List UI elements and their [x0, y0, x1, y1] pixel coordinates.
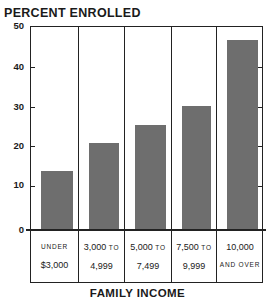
y-tick-label-50: 50 — [2, 20, 24, 31]
y-tick-label-20: 20 — [2, 140, 24, 151]
category-label-4: 7,500 TO 9,999 — [172, 238, 216, 275]
category-label-2: 3,000 TO 4,999 — [79, 238, 124, 275]
category-line-2: 9,999 — [172, 257, 216, 275]
y-tick — [30, 186, 35, 187]
category-label-3: 5,000 TO 7,499 — [125, 238, 171, 275]
category-line-1: UNDER — [31, 238, 78, 256]
category-line-1: 7,500 TO — [172, 238, 216, 257]
range-to: TO — [155, 244, 166, 251]
category-label-1: UNDER $3,000 — [31, 238, 78, 274]
category-label-5: 10,000 AND OVER — [217, 238, 263, 274]
y-tick — [258, 186, 263, 187]
range-to: TO — [201, 244, 212, 251]
bar-1 — [41, 171, 73, 230]
bar-5 — [227, 40, 258, 230]
range-start: 7,500 — [176, 242, 199, 252]
category-line-2: 7,499 — [125, 257, 171, 275]
category-line-1: 10,000 — [217, 238, 263, 256]
category-line-1: 5,000 TO — [125, 238, 171, 257]
y-tick-label-10: 10 — [2, 179, 24, 190]
x-axis-title: FAMILY INCOME — [0, 287, 275, 299]
range-to: TO — [109, 244, 120, 251]
y-tick — [258, 146, 263, 147]
category-line-2: $3,000 — [31, 256, 78, 274]
bar-2 — [89, 143, 119, 230]
y-tick — [30, 67, 35, 68]
x-axis-baseline — [26, 229, 266, 231]
bar-4 — [182, 106, 211, 230]
y-tick-label-0: 0 — [2, 224, 24, 235]
y-tick-label-40: 40 — [2, 61, 24, 72]
chart-title: PERCENT ENROLLED — [4, 6, 141, 20]
y-tick — [30, 107, 35, 108]
category-line-2: AND OVER — [217, 256, 263, 274]
range-start: 3,000 — [84, 242, 107, 252]
y-tick-label-30: 30 — [2, 101, 24, 112]
bar-3 — [135, 125, 166, 230]
category-line-2: 4,999 — [79, 257, 124, 275]
y-tick — [30, 146, 35, 147]
y-tick — [258, 67, 263, 68]
category-line-1: 3,000 TO — [79, 238, 124, 257]
range-start: 5,000 — [130, 242, 153, 252]
y-tick — [258, 107, 263, 108]
